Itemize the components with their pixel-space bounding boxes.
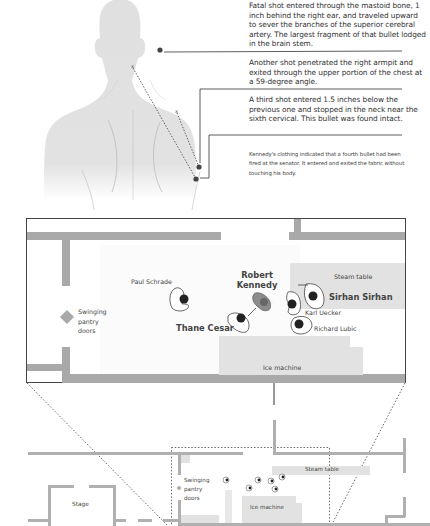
ice-machine-top: [219, 336, 350, 347]
overview-label-swinging-doors: Swinging pantry doors: [184, 476, 209, 503]
note-third-shot: A third shot entered 1.5 inches below th…: [249, 95, 427, 124]
label-robert-kennedy-1: Robert: [237, 270, 277, 280]
label-robert-kennedy-2: Kennedy: [233, 280, 281, 290]
label-paul-schrade: Paul Schrade: [131, 278, 172, 285]
note-fatal-shot: Fatal shot entered through the mastoid b…: [249, 1, 427, 49]
overview-label-ice-machine: Ice machine: [250, 504, 284, 510]
label-richard-lubic: Richard Lubic: [314, 325, 357, 332]
wound-mastoid: [157, 47, 162, 52]
exit-marker-1: x: [131, 63, 134, 69]
wall: [27, 364, 63, 371]
wall: [294, 219, 301, 233]
body-silhouette: [44, 0, 200, 210]
overview-doors-marker: [177, 486, 181, 490]
overview-label-steam-table: Steam table: [305, 466, 339, 472]
label-swinging-doors: Swinging pantry doors: [78, 307, 107, 336]
wall: [62, 240, 70, 286]
label-thane-cesar: Thane Cesar: [176, 323, 234, 333]
label-ice-machine: Ice machine: [263, 364, 301, 371]
figure-richard-lubic: [291, 316, 312, 334]
wall: [62, 374, 405, 383]
label-karl-uecker: Karl Uecker: [305, 309, 341, 316]
wall: [27, 232, 221, 240]
overview-label-stage: Stage: [72, 501, 89, 507]
note-fourth-bullet: Kennedy's clothing indicated that a four…: [249, 150, 409, 178]
overview-map: [28, 420, 430, 526]
wound-third: [196, 164, 201, 169]
wound-armpit: [193, 176, 198, 181]
note-armpit-shot: Another shot penetrated the right armpit…: [249, 58, 427, 87]
wall: [289, 232, 405, 240]
label-steam-table: Steam table: [334, 273, 372, 280]
exit-marker-2: x: [175, 108, 178, 114]
label-sirhan-sirhan: Sirhan Sirhan: [329, 292, 393, 302]
